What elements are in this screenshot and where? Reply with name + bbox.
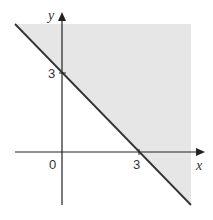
origin-label: 0: [49, 157, 56, 172]
x-axis-arrow-icon: [196, 148, 205, 156]
x-intercept-label: 3: [133, 157, 140, 172]
y-axis-arrow-icon: [58, 12, 66, 21]
inequality-diagram: y x 0 3 3: [0, 0, 213, 220]
y-axis-label: y: [46, 8, 55, 23]
x-axis-label: x: [195, 158, 203, 173]
y-intercept-label: 3: [48, 66, 55, 81]
